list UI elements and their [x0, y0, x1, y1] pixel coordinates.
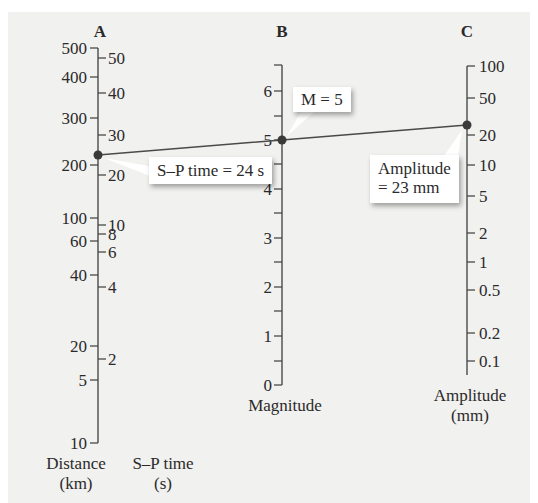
axis-b-header: B — [276, 22, 287, 41]
tick-label: 4 — [108, 278, 117, 297]
tick-label: 6 — [264, 82, 273, 101]
distance-title-line2: (km) — [28, 474, 124, 494]
amplitude-callout: Amplitude = 23 mm — [370, 155, 459, 203]
sp-time-callout-text: S–P time = 24 s — [157, 161, 264, 180]
tick-label: 2 — [479, 224, 488, 243]
tick-label: 5 — [79, 371, 88, 390]
amplitude-callout-pointer — [444, 130, 462, 156]
sp-title-line1: S–P time — [118, 454, 208, 474]
axis-c-amplitude-scale: 1005020105210.50.20.1 — [467, 57, 505, 371]
axis-a-header: A — [94, 22, 107, 41]
tick-label: 0.5 — [479, 281, 500, 300]
magnitude-callout-text: M = 5 — [301, 90, 343, 109]
tick-label: 500 — [62, 39, 88, 58]
axis-a-distance-scale: 500400300200100604020510 — [62, 39, 99, 453]
tick-label: 2 — [108, 350, 117, 369]
amplitude-title-line2: (mm) — [420, 406, 520, 426]
tick-label: 10 — [70, 434, 87, 453]
tick-label: 40 — [108, 84, 125, 103]
tick-label: 2 — [264, 278, 273, 297]
sp-time-callout: S–P time = 24 s — [149, 157, 272, 184]
amplitude-axis-title: Amplitude (mm) — [420, 386, 520, 426]
distance-axis-title: Distance (km) — [28, 454, 124, 494]
tick-label: 1 — [479, 253, 488, 272]
nomogram-svg: A B C 500400300200100604020510 504030201… — [0, 0, 538, 503]
tick-label: 8 — [108, 225, 117, 244]
axis-a-sp-scale: 50403020108642 — [98, 49, 125, 369]
tick-label: 50 — [108, 49, 125, 68]
amplitude-callout-line1: Amplitude — [378, 159, 451, 178]
tick-label: 1 — [264, 327, 273, 346]
magnitude-axis-title: Magnitude — [230, 396, 340, 416]
tick-label: 200 — [62, 156, 88, 175]
amplitude-title-line1: Amplitude — [420, 386, 520, 406]
tick-label: 20 — [479, 126, 496, 145]
tick-label: 400 — [62, 68, 88, 87]
point-a-dot — [94, 151, 103, 160]
tick-label: 0 — [264, 376, 273, 395]
tick-label: 5 — [479, 187, 488, 206]
tick-label: 20 — [108, 166, 125, 185]
axis-b-magnitude-scale: 6543210 — [264, 65, 283, 395]
magnitude-title: Magnitude — [230, 396, 340, 416]
tick-label: 30 — [108, 126, 125, 145]
tick-label: 6 — [108, 243, 117, 262]
tick-label: 100 — [479, 57, 505, 76]
sp-title-line2: (s) — [118, 474, 208, 494]
tick-label: 0.2 — [479, 324, 500, 343]
distance-title-line1: Distance — [28, 454, 124, 474]
magnitude-callout: M = 5 — [293, 87, 351, 112]
tick-label: 0.1 — [479, 352, 500, 371]
tick-label: 20 — [70, 337, 87, 356]
tick-label: 10 — [479, 156, 496, 175]
amplitude-callout-line2: = 23 mm — [378, 178, 451, 197]
axis-c-header: C — [461, 22, 473, 41]
tick-label: 3 — [264, 229, 273, 248]
point-c-dot — [463, 121, 472, 130]
tick-label: 50 — [479, 89, 496, 108]
sp-time-axis-title: S–P time (s) — [118, 454, 208, 494]
tick-label: 300 — [62, 109, 88, 128]
point-b-dot — [278, 136, 287, 145]
magnitude-callout-pointer — [287, 110, 316, 136]
tick-label: 100 — [62, 209, 88, 228]
tick-label: 40 — [70, 266, 87, 285]
tick-label: 60 — [70, 232, 87, 251]
